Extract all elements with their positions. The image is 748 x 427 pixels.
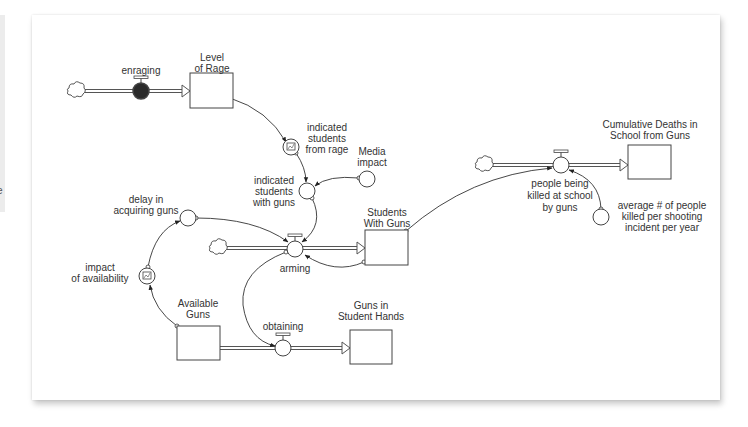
stock-label: Available [178,298,219,309]
connector-rage-to-indicated [230,98,286,142]
flow-label: people being [531,178,588,189]
connector-impact-to-delay [148,221,180,267]
connector-delay-to-arming [196,218,288,242]
stock-flow-diagram: Level of Rage Students With Guns Availab… [0,0,748,427]
connector-media-to-indicated [315,177,359,186]
stock-label: Guns in [354,300,388,311]
stock-label: Level [200,52,224,63]
stock-label: With Guns [364,218,411,229]
converter-label: indicated [254,175,294,186]
stock-guns-in-student-hands[interactable]: Guns in Student Hands [338,300,404,364]
stock-label: Students [367,207,406,218]
converter-media-impact[interactable]: Media impact [357,146,387,187]
stock-cumulative-deaths[interactable]: Cumulative Deaths in School from Guns [602,119,697,179]
flow-label: by guns [542,202,577,213]
converter-label: from rage [306,144,349,155]
converter-label: incident per year [625,222,700,233]
converter-indicated-from-rage[interactable]: indicated students from rage [283,122,349,155]
converter-label: acquiring guns [113,205,178,216]
converter-impact-of-availability[interactable]: impact of availability [71,262,155,284]
flow-label: obtaining [263,321,304,332]
stock-label: Student Hands [338,311,404,322]
connector-indicated-rage-to-guns [296,153,306,182]
stock-level-of-rage[interactable]: Level of Rage [190,52,233,108]
converter-label: Media [358,146,386,157]
connector-students-to-arming [305,255,364,267]
source-cloud-icon [475,156,493,172]
flow-label: arming [280,263,311,274]
stock-label: of Rage [194,63,229,74]
converter-label: average # of people [618,200,707,211]
converter-label: impact [357,157,387,168]
converter-delay-acquiring-guns[interactable]: delay in acquiring guns [113,194,196,226]
stock-available-guns[interactable]: Available Guns [177,298,220,360]
flow-valve-people-killed[interactable]: people being killed at school by guns [527,150,593,213]
flow-label: enraging [122,65,161,76]
flow-valve-arming[interactable]: arming [280,234,311,274]
source-cloud-icon [209,239,227,255]
flow-valve-obtaining[interactable]: obtaining [263,321,304,356]
stock-label: Cumulative Deaths in [602,119,697,130]
stock-students-with-guns[interactable]: Students With Guns [364,207,411,265]
stock-label: School from Guns [610,130,690,141]
stock-label: Guns [186,309,210,320]
connector-available-to-impact [150,285,177,326]
flow-valve-enraging[interactable]: enraging [122,65,161,99]
converter-label: killed per shooting [622,211,703,222]
converter-average-killed[interactable]: average # of people killed per shooting … [593,200,707,233]
connector-indicated-to-arming [302,198,317,242]
converter-label: students [255,186,293,197]
converter-label: indicated [307,122,347,133]
converter-label: impact [85,262,115,273]
converter-label: with guns [252,197,295,208]
flow-label: killed at school [527,190,593,201]
source-cloud-icon [67,82,85,98]
converter-label: students [308,133,346,144]
converter-label: of availability [71,273,128,284]
converter-label: delay in [129,194,163,205]
